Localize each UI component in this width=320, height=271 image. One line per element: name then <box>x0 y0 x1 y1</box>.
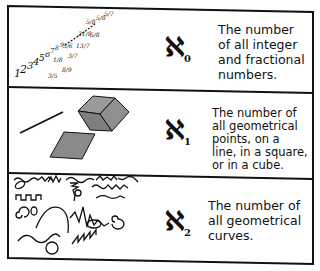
svg-text:5/8: 5/8 <box>90 31 100 38</box>
svg-text:3/5: 3/5 <box>48 72 58 79</box>
svg-text:13/7: 13/7 <box>76 42 90 49</box>
aleph-null-description: The number of all integer and fractional… <box>218 22 305 82</box>
svg-text:5/6: 5/6 <box>63 42 73 49</box>
svg-text:2: 2 <box>19 63 27 76</box>
svg-text:8: 8 <box>55 44 59 51</box>
assorted-curves-illustration <box>14 176 138 254</box>
svg-text:5/7: 5/7 <box>104 10 114 17</box>
aleph-two-description: The number of all geometrical curves. <box>208 198 301 243</box>
aleph-diagram: 1 2 3 4 5 6 7 8 9 5/8 5/7 5/8 31/8 5/8 1… <box>0 0 320 271</box>
svg-text:1/8: 1/8 <box>53 56 63 63</box>
line-square-cube-illustration <box>20 96 129 159</box>
aleph-one-description: The number of all geometrical points, on… <box>212 107 308 172</box>
svg-text:3/7: 3/7 <box>68 52 78 59</box>
aleph-null-symbol: ℵ0 <box>165 34 191 64</box>
svg-text:8/9: 8/9 <box>62 66 72 73</box>
integers-and-fractions-illustration: 1 2 3 4 5 6 7 8 9 5/8 5/7 5/8 31/8 5/8 1… <box>14 10 114 80</box>
aleph-one-symbol: ℵ1 <box>165 117 191 147</box>
svg-text:5/8: 5/8 <box>86 18 96 25</box>
aleph-two-symbol: ℵ2 <box>165 208 191 238</box>
